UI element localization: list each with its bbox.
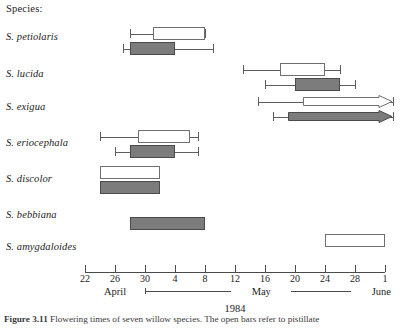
whisker-cap-max bbox=[355, 80, 356, 89]
bar-filled bbox=[130, 217, 205, 230]
axis-tick-label: 12 bbox=[223, 273, 247, 284]
whisker-cap-min bbox=[243, 65, 244, 74]
species-label-s-lucida: S. lucida bbox=[6, 68, 44, 79]
axis-tick-label: 24 bbox=[313, 273, 337, 284]
arrow-bar-open bbox=[303, 95, 393, 108]
arrow-bar-filled bbox=[288, 110, 393, 123]
bar-open bbox=[138, 130, 191, 143]
figure-caption: Figure 3.11 Flowering times of seven wil… bbox=[4, 314, 402, 324]
bar-filled bbox=[130, 42, 175, 55]
species-label-s-petiolaris: S. petiolaris bbox=[6, 31, 58, 42]
axis-tick-label: 20 bbox=[283, 273, 307, 284]
species-label-s-eriocephala: S. eriocephala bbox=[6, 137, 68, 148]
whisker-cap-max bbox=[393, 112, 394, 121]
axis-tick-label: 8 bbox=[193, 273, 217, 284]
bar-filled bbox=[100, 181, 160, 194]
axis-tick-label: 4 bbox=[163, 273, 187, 284]
axis-tick bbox=[385, 265, 386, 272]
bar-open bbox=[325, 234, 385, 247]
phenology-figure: Species: S. petiolarisS. lucidaS. exigua… bbox=[0, 0, 405, 329]
month-label-may: May bbox=[231, 286, 291, 297]
month-label-june: June bbox=[351, 286, 405, 297]
axis-tick-label: 30 bbox=[133, 273, 157, 284]
whisker-cap-min bbox=[100, 132, 101, 141]
species-label-s-bebbiana: S. bebbiana bbox=[6, 209, 57, 220]
whisker-cap-max bbox=[393, 97, 394, 106]
axis-tick bbox=[205, 265, 206, 272]
whisker-cap-min bbox=[265, 80, 266, 89]
axis-tick-label: 1 bbox=[373, 273, 397, 284]
bar-open bbox=[100, 166, 160, 179]
axis-tick bbox=[145, 265, 146, 272]
whisker-cap-min bbox=[258, 97, 259, 106]
axis-tick bbox=[175, 265, 176, 272]
whisker-cap-max bbox=[198, 132, 199, 141]
year-label: 1984 bbox=[205, 303, 265, 314]
whisker-cap-min bbox=[130, 29, 131, 38]
month-label-april: April bbox=[85, 286, 145, 297]
axis-tick-label: 26 bbox=[103, 273, 127, 284]
whisker-cap-min bbox=[115, 147, 116, 156]
whisker-cap-min bbox=[273, 112, 274, 121]
bar-open bbox=[153, 27, 206, 40]
bar-open bbox=[280, 63, 325, 76]
plot-area: S. petiolarisS. lucidaS. exiguaS. erioce… bbox=[0, 0, 405, 262]
axis-tick-label: 22 bbox=[73, 273, 97, 284]
species-label-s-amygdaloides: S. amygdaloides bbox=[6, 241, 76, 252]
axis-tick bbox=[325, 265, 326, 272]
axis-tick-label: 28 bbox=[343, 273, 367, 284]
axis-tick bbox=[295, 265, 296, 272]
whisker-cap-max bbox=[205, 29, 206, 38]
whisker-cap-min bbox=[123, 44, 124, 53]
species-label-s-exigua: S. exigua bbox=[6, 101, 45, 112]
axis-tick bbox=[115, 265, 116, 272]
species-label-s-discolor: S. discolor bbox=[6, 173, 52, 184]
caption-label: Figure 3.11 bbox=[4, 314, 48, 324]
whisker-cap-max bbox=[340, 65, 341, 74]
month-bracket-cap bbox=[145, 288, 146, 294]
axis-tick bbox=[235, 265, 236, 272]
axis-tick bbox=[265, 265, 266, 272]
bar-filled bbox=[130, 145, 175, 158]
whisker-cap-max bbox=[198, 147, 199, 156]
whisker-cap-max bbox=[213, 44, 214, 53]
caption-text: Flowering times of seven willow species.… bbox=[50, 314, 319, 324]
axis-tick bbox=[85, 265, 86, 272]
axis-tick-label: 16 bbox=[253, 273, 277, 284]
bar-filled bbox=[295, 78, 340, 91]
axis-tick bbox=[355, 265, 356, 272]
